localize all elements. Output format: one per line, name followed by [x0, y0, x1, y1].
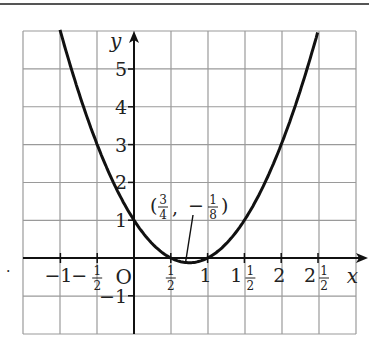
tick-den: 2 — [167, 279, 175, 293]
vertex-pointer — [186, 215, 193, 263]
tick-num: 1 — [93, 264, 101, 278]
y-tick-label: 1 — [115, 209, 127, 231]
svg-text:8: 8 — [209, 208, 217, 222]
y-axis-label: y — [109, 29, 122, 53]
tick-den: 2 — [93, 279, 101, 293]
tick-den: 2 — [247, 279, 255, 293]
x-tick-label: −1 — [44, 264, 72, 286]
x-tick-label: 2 — [273, 264, 285, 286]
svg-text:3: 3 — [159, 193, 167, 207]
y-tick-label: 3 — [115, 134, 127, 156]
y-tick-label: 4 — [115, 96, 127, 118]
svg-text:(: ( — [150, 194, 157, 216]
svg-text:,: , — [172, 196, 178, 218]
parabola-curve — [60, 30, 318, 263]
tick-den: 2 — [320, 279, 328, 293]
tick-num: 1 — [167, 264, 175, 278]
svg-text:1: 1 — [209, 193, 217, 207]
svg-text:): ) — [221, 194, 228, 216]
tick-num: 1 — [247, 264, 255, 278]
svg-text:−: − — [188, 194, 204, 216]
tick-whole: 1 — [230, 264, 242, 286]
parabola-chart: xy54321−1−1−12O1211122212 (34,−18) — [0, 0, 369, 353]
svg-text:4: 4 — [159, 208, 167, 222]
x-axis-label: x — [347, 264, 358, 288]
tick-num: 1 — [320, 264, 328, 278]
tick-whole: 2 — [304, 264, 316, 286]
tick-labels: xy54321−1−1−12O1211122212 — [44, 29, 358, 307]
tick-minus: − — [71, 264, 87, 286]
y-tick-label: 5 — [115, 58, 127, 80]
origin-label: O — [116, 265, 132, 289]
x-tick-label: 1 — [200, 264, 212, 286]
